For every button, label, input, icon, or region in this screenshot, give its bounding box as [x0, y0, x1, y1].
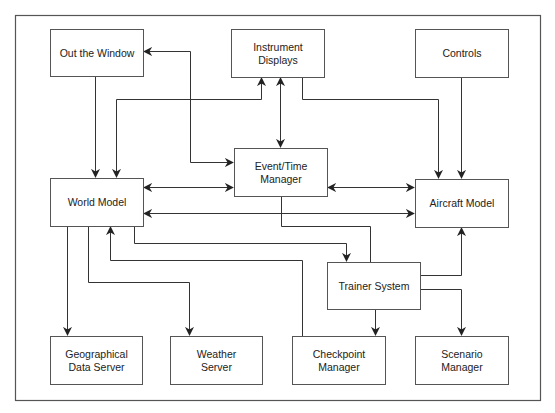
node-label: Instrument Displays — [253, 41, 303, 67]
node-scenario-manager: Scenario Manager — [415, 336, 509, 385]
node-weather-server: Weather Server — [170, 336, 263, 385]
node-checkpoint-manager: Checkpoint Manager — [292, 336, 386, 385]
edge-worldmodel-trainer — [135, 226, 347, 261]
node-label: Out the Window — [60, 47, 135, 60]
node-label: Geographical Data Server — [65, 348, 127, 374]
node-geographical-data-server: Geographical Data Server — [50, 336, 143, 385]
edge-trainer-aircraft — [420, 228, 462, 276]
node-out-the-window: Out the Window — [50, 29, 144, 77]
node-label: Weather Server — [197, 348, 237, 374]
node-label: Trainer System — [339, 280, 410, 293]
node-label: Checkpoint Manager — [313, 348, 366, 374]
node-instrument-displays: Instrument Displays — [231, 29, 325, 78]
node-controls: Controls — [415, 29, 509, 78]
node-aircraft-model: Aircraft Model — [415, 179, 509, 228]
node-label: Controls — [442, 47, 481, 60]
node-label: World Model — [68, 196, 127, 209]
node-label: Event/Time Manager — [255, 160, 308, 186]
node-event-time-manager: Event/Time Manager — [234, 148, 328, 197]
node-world-model: World Model — [50, 178, 144, 227]
node-label: Scenario Manager — [441, 348, 482, 374]
node-label: Aircraft Model — [430, 197, 495, 210]
edge-eventtime-trainer — [282, 196, 371, 262]
node-trainer-system: Trainer System — [327, 262, 421, 310]
edge-trainer-scenario — [420, 290, 462, 336]
edge-eventtime-outwindow — [144, 52, 233, 163]
edge-worldmodel-weather — [89, 226, 190, 335]
